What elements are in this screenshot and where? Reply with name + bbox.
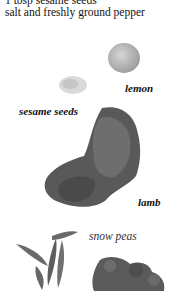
sesame-seeds-image (57, 74, 89, 96)
lamb-image (40, 104, 150, 214)
greens-image (90, 254, 170, 291)
snow-peas-label: snow peas (89, 230, 137, 242)
lamb-label: lamb (138, 196, 161, 208)
lemon-label: lemon (125, 82, 153, 94)
snow-peas-image (12, 226, 82, 291)
ingredient-salt-pepper: salt and freshly ground pepper (5, 6, 145, 19)
lemon-image (104, 40, 144, 76)
